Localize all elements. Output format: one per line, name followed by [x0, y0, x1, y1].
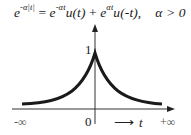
y-axis-arrowhead-icon — [92, 24, 98, 32]
t-direction-arrow-icon: ⟶ — [114, 114, 134, 131]
x-tick-label-neg-inf: -∞ — [14, 115, 27, 130]
y-tick-label-peak: 1 — [85, 42, 92, 58]
curve-e-alpha-abs-t — [22, 53, 162, 104]
x-tick-label-pos-inf: +∞ — [160, 115, 175, 130]
x-axis-arrowhead-icon — [167, 106, 175, 112]
x-axis-variable-label: t — [139, 115, 143, 131]
origin-label: 0 — [85, 114, 92, 130]
